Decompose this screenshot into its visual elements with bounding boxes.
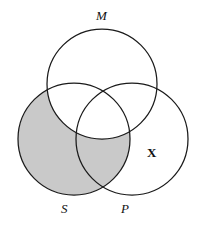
circle-label-m: M: [96, 9, 107, 22]
circle-label-s: S: [61, 202, 68, 215]
existential-marker-x: X: [147, 146, 156, 159]
circle-label-p: P: [121, 202, 129, 215]
venn-diagram-canvas: [0, 0, 204, 229]
venn-diagram-figure: M S P X: [0, 0, 204, 229]
